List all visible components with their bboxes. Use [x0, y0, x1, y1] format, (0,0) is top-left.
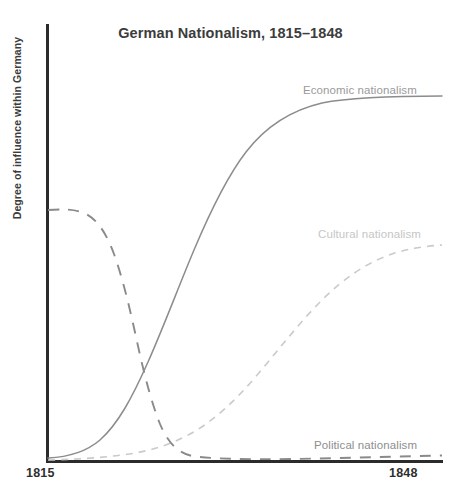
- chart-figure: German Nationalism, 1815–1848 Degree of …: [0, 0, 461, 501]
- y-axis-title: Degree of influence within Germany: [11, 28, 23, 228]
- series-label-political: Political nationalism: [314, 439, 417, 451]
- chart-title: German Nationalism, 1815–1848: [0, 24, 461, 42]
- x-axis-tick-start: 1815: [26, 466, 55, 480]
- chart-plot-area: [0, 0, 461, 501]
- series-label-cultural: Cultural nationalism: [318, 228, 421, 240]
- series-label-economic: Economic nationalism: [303, 84, 417, 96]
- chart-background: [0, 0, 461, 501]
- x-axis-tick-end: 1848: [389, 466, 418, 480]
